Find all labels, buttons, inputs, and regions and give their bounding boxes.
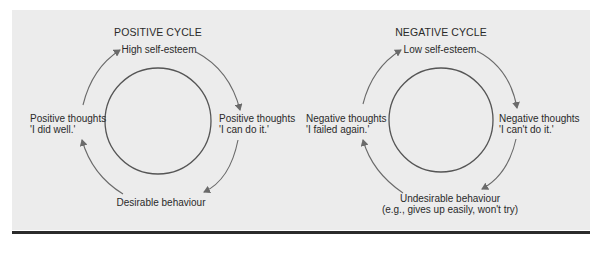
arrow-right-to-bottom-icon <box>204 140 238 192</box>
negative-cycle-title: NEGATIVE CYCLE <box>395 27 487 38</box>
positive-right-label: Positive thoughts 'I can do it.' <box>219 113 295 135</box>
negative-bottom-line1: Undesirable behaviour <box>382 193 518 204</box>
negative-left-line2: 'I failed again.' <box>306 124 387 135</box>
negative-top-label: Low self-esteem <box>404 44 477 55</box>
arrow-bottom-to-left-icon <box>82 140 123 194</box>
negative-right-label: Negative thoughts 'I can't do it.' <box>499 113 580 135</box>
positive-right-line2: 'I can do it.' <box>219 124 295 135</box>
negative-right-line2: 'I can't do it.' <box>499 124 580 135</box>
positive-left-line1: Positive thoughts <box>30 113 106 124</box>
negative-bottom-label: Undesirable behaviour (e.g., gives up ea… <box>382 193 518 215</box>
positive-left-line2: 'I did well.' <box>30 124 106 135</box>
negative-left-line1: Negative thoughts <box>306 113 387 124</box>
positive-top-label: High self-esteem <box>121 44 196 55</box>
positive-inner-circle <box>105 68 211 174</box>
positive-left-label: Positive thoughts 'I did well.' <box>30 113 106 135</box>
negative-right-line1: Negative thoughts <box>499 113 580 124</box>
horizontal-rule <box>12 231 590 234</box>
negative-left-label: Negative thoughts 'I failed again.' <box>306 113 387 135</box>
positive-right-line1: Positive thoughts <box>219 113 295 124</box>
arrow-right-to-bottom-icon <box>482 139 516 189</box>
positive-cycle-title: POSITIVE CYCLE <box>114 27 202 38</box>
arrow-top-to-right-icon <box>477 51 517 108</box>
arrow-top-to-right-icon <box>196 52 240 110</box>
negative-inner-circle <box>389 68 493 172</box>
arrow-left-to-top-icon <box>83 50 120 105</box>
positive-bottom-label: Desirable behaviour <box>117 197 206 208</box>
negative-bottom-line2: (e.g., gives up easily, won't try) <box>382 204 518 215</box>
